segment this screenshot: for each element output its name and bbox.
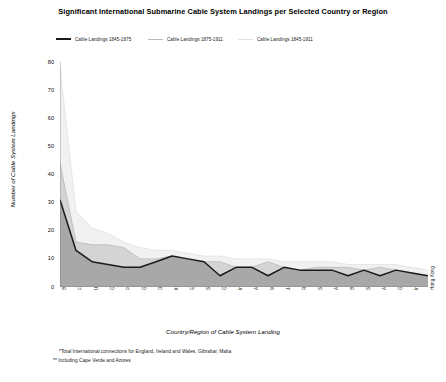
chart-footnotes: *Total International connections for Eng… (53, 347, 383, 365)
legend-item-series-1: Cable Landings 1875-1911 (148, 33, 223, 45)
y-tick-label: 30 (34, 199, 54, 205)
y-tick-label: 20 (34, 227, 54, 233)
footnote-1: ** Including Cape Verde and Azores (53, 356, 383, 365)
legend-swatch-icon-1 (148, 39, 163, 40)
y-axis-title: Number of Cable System Landings (9, 85, 16, 235)
legend-label-0: Cable Landings 1845-1875 (75, 37, 131, 42)
legend-item-series-2: Cable Landings 1845-1911 (238, 33, 313, 45)
chart-legend: Cable Landings 1845-1875 Cable Landings … (56, 33, 386, 45)
plot-area (60, 62, 428, 287)
legend-swatch-icon-2 (238, 39, 253, 40)
y-tick-label: 80 (34, 59, 54, 65)
y-tick-label: 70 (34, 87, 54, 93)
y-tick-label: 40 (34, 171, 54, 177)
y-tick-label: 60 (34, 115, 54, 121)
legend-label-2: Cable Landings 1845-1911 (257, 37, 313, 42)
x-axis-title: Country/Region of Cable System Landing (0, 328, 446, 335)
x-tick-label: Hong Kong (430, 266, 435, 290)
chart-container: Significant International Submarine Cabl… (0, 0, 446, 382)
legend-swatch-icon-0 (56, 38, 71, 40)
y-tick-label: 10 (34, 255, 54, 261)
footnote-0: *Total International connections for Eng… (53, 347, 383, 356)
legend-label-1: Cable Landings 1875-1911 (167, 37, 223, 42)
legend-item-series-0: Cable Landings 1845-1875 (56, 33, 131, 45)
area-chart-svg (60, 62, 428, 287)
y-tick-label: 0 (34, 284, 54, 290)
y-tick-label: 50 (34, 143, 54, 149)
chart-title: Significant International Submarine Cabl… (0, 7, 446, 16)
